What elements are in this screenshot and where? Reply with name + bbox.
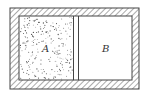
label-a: A bbox=[41, 43, 49, 54]
container-diagram: A B bbox=[0, 0, 143, 97]
label-b: B bbox=[101, 43, 109, 54]
